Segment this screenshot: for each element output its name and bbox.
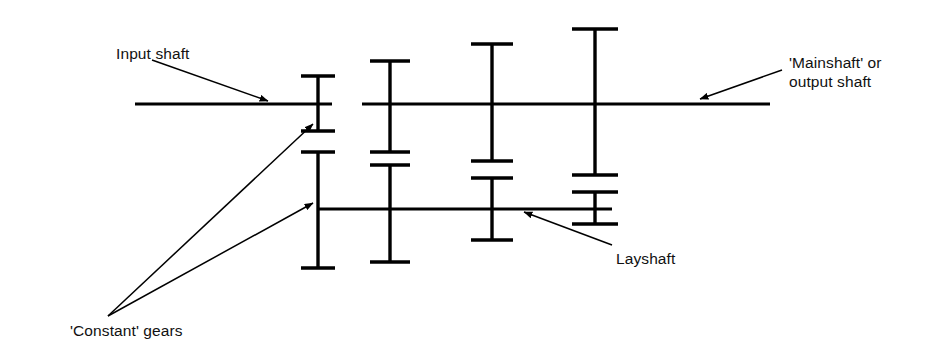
- diagram-canvas: Input shaft 'Mainshaft' oroutput shaft '…: [0, 0, 935, 362]
- label-mainshaft-line1: 'Mainshaft' or: [789, 54, 882, 71]
- leader-line-group: [108, 60, 782, 316]
- label-input-shaft: Input shaft: [116, 44, 189, 63]
- shaft-group: [135, 104, 770, 209]
- label-layshaft: Layshaft: [616, 249, 675, 268]
- mainshaft-leader: [700, 70, 782, 99]
- input-shaft-leader: [152, 60, 268, 101]
- label-mainshaft-line2: output shaft: [789, 73, 871, 90]
- mainshaft-gear-group: [301, 29, 618, 175]
- layshaft-leader: [524, 212, 612, 245]
- label-constant-gears: 'Constant' gears: [70, 321, 183, 340]
- label-mainshaft-output-shaft: 'Mainshaft' oroutput shaft: [789, 53, 882, 91]
